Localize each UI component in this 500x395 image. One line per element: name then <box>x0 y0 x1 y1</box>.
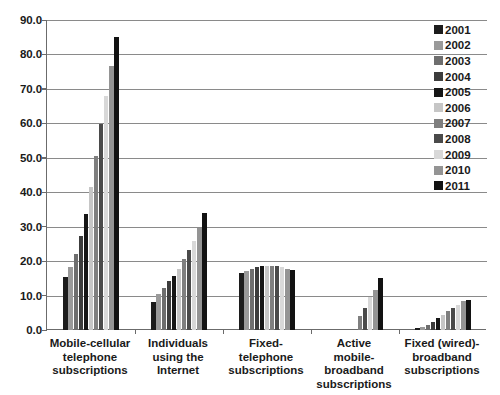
legend-swatch-icon <box>434 150 443 159</box>
legend-swatch-icon <box>434 56 443 65</box>
bar <box>192 241 196 330</box>
bar <box>426 325 430 330</box>
x-axis-category-label-line: broadband <box>399 351 485 365</box>
legend-swatch-icon <box>434 103 443 112</box>
legend-item[interactable]: 2010 <box>434 162 471 178</box>
bar <box>167 281 171 330</box>
bar <box>239 273 243 330</box>
x-axis-category-label: Fixed (wired)-broadbandsubscriptions <box>398 337 486 391</box>
bar <box>177 269 181 330</box>
y-axis-tick-label: 0.0 <box>26 324 42 336</box>
x-axis-category-label-line: subscriptions <box>47 364 133 378</box>
bar <box>99 124 103 330</box>
legend-swatch-icon <box>434 88 443 97</box>
bar <box>151 302 155 330</box>
bar <box>446 311 450 330</box>
legend-item[interactable]: 2008 <box>434 131 471 147</box>
bar <box>358 316 362 330</box>
legend-item[interactable]: 2011 <box>434 178 471 194</box>
legend: 2001200220032004200520062007200820092010… <box>434 22 471 194</box>
bar <box>373 290 377 330</box>
bar <box>63 277 67 330</box>
category-separator <box>135 329 136 334</box>
bar-cluster <box>311 20 399 330</box>
bar <box>255 267 259 330</box>
category-separator <box>311 329 312 334</box>
x-axis-category-label-line: subscriptions <box>311 378 397 392</box>
bar <box>420 327 424 330</box>
legend-label: 2001 <box>445 24 471 36</box>
x-axis-category-label: Individualsusing the Internet <box>134 337 222 391</box>
legend-item[interactable]: 2004 <box>434 69 471 85</box>
bar <box>285 269 289 330</box>
bar <box>202 213 206 330</box>
x-axis-category-label-line: Active <box>311 337 397 351</box>
legend-item[interactable]: 2002 <box>434 38 471 54</box>
legend-item[interactable]: 2006 <box>434 100 471 116</box>
bar <box>182 259 186 330</box>
bar <box>260 266 264 330</box>
y-axis-tick-label: 40.0 <box>20 186 42 198</box>
legend-swatch-icon <box>434 134 443 143</box>
x-axis-category-label-line: telephone <box>47 351 133 365</box>
category-separator <box>399 329 400 334</box>
x-axis-category-label-line: subscriptions <box>399 364 485 378</box>
bar-cluster <box>47 20 135 330</box>
legend-swatch-icon <box>434 72 443 81</box>
bar-clusters <box>47 20 487 330</box>
bar <box>114 37 118 330</box>
legend-label: 2010 <box>445 164 471 176</box>
bar <box>456 305 460 330</box>
bar <box>415 328 419 330</box>
legend-label: 2009 <box>445 149 471 161</box>
legend-swatch-icon <box>434 41 443 50</box>
legend-label: 2003 <box>445 55 471 67</box>
y-axis-tick-label: 80.0 <box>20 48 42 60</box>
legend-swatch-icon <box>434 181 443 190</box>
y-axis-tick-label: 60.0 <box>20 117 42 129</box>
legend-label: 2007 <box>445 117 471 129</box>
x-axis-category-label-line: using the Internet <box>135 351 221 378</box>
x-axis-category-label: Fixed-telephonesubscriptions <box>222 337 310 391</box>
bar <box>290 270 294 330</box>
legend-item[interactable]: 2005 <box>434 84 471 100</box>
legend-swatch-icon <box>434 25 443 34</box>
y-axis-tick-label: 20.0 <box>20 255 42 267</box>
bar <box>275 266 279 330</box>
bar <box>461 301 465 330</box>
legend-item[interactable]: 2001 <box>434 22 471 38</box>
bar-cluster <box>135 20 223 330</box>
legend-item[interactable]: 2007 <box>434 116 471 132</box>
legend-label: 2004 <box>445 71 471 83</box>
legend-item[interactable]: 2009 <box>434 147 471 163</box>
bar-chart: 90.080.070.060.050.040.030.020.010.00.0 … <box>0 0 500 395</box>
bar <box>250 269 254 330</box>
legend-label: 2011 <box>445 180 470 192</box>
legend-item[interactable]: 2003 <box>434 53 471 69</box>
y-axis-tick-label: 90.0 <box>20 14 42 26</box>
legend-label: 2006 <box>445 102 471 114</box>
plot-area <box>46 20 486 330</box>
bar <box>280 267 284 330</box>
bar <box>466 300 470 330</box>
bar <box>172 276 176 330</box>
bar <box>431 322 435 330</box>
y-axis-tick-label: 70.0 <box>20 83 42 95</box>
bar-cluster <box>223 20 311 330</box>
x-axis-labels: Mobile-cellulartelephonesubscriptionsInd… <box>46 337 486 391</box>
x-axis-category-label-line: Fixed-telephone <box>223 337 309 364</box>
bar <box>270 266 274 330</box>
legend-swatch-icon <box>434 119 443 128</box>
x-axis-category-label-line: subscriptions <box>223 364 309 378</box>
y-axis-tick-label: 50.0 <box>20 152 42 164</box>
y-axis-tick-label: 10.0 <box>20 290 42 302</box>
x-axis-category-label-line: mobile-broadband <box>311 351 397 378</box>
x-axis-category-label-line: Individuals <box>135 337 221 351</box>
bar <box>265 266 269 330</box>
bar <box>74 254 78 330</box>
bar <box>89 187 93 330</box>
bar <box>84 214 88 330</box>
bar <box>368 297 372 330</box>
bar <box>79 236 83 330</box>
bar <box>451 308 455 330</box>
